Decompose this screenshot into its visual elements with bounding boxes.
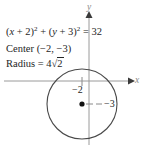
x-tick-label-neg2: −2 xyxy=(72,85,83,95)
circle-graph-figure: (x + 2)2 + (y + 3)2 = 32 Center (−2, −3)… xyxy=(0,0,145,145)
center-point-marker xyxy=(79,101,84,106)
y-tick-label-neg3: −3 xyxy=(104,99,115,109)
x-axis-label: x xyxy=(135,76,139,86)
y-axis-label: y xyxy=(87,3,91,13)
coordinate-plane xyxy=(0,0,145,145)
x-axis-arrow-icon xyxy=(128,78,135,85)
